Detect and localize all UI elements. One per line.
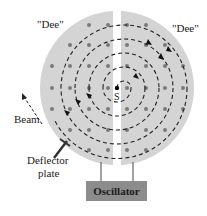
source-label: S: [114, 92, 120, 102]
oscillator-box: Oscillator: [86, 181, 147, 201]
beam-label: Beam: [14, 114, 40, 125]
plate-label: plate: [38, 168, 59, 179]
dee-left-label: "Dee": [37, 19, 64, 30]
dee-right-label: "Dee": [172, 23, 199, 34]
oscillator-label: Oscillator: [93, 185, 139, 197]
source-dot: [115, 86, 119, 90]
deflector-label: Deflector: [27, 155, 69, 166]
